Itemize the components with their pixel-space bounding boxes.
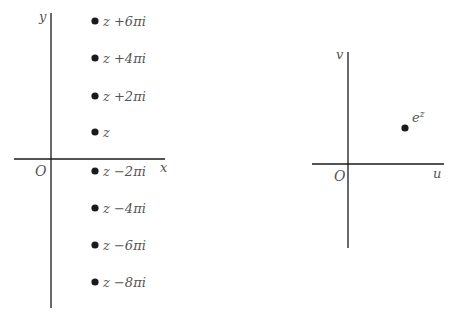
left-y-axis-label: y (38, 9, 47, 24)
right-u-axis-label: u (433, 166, 441, 181)
point-marker (401, 124, 408, 131)
point-marker (91, 128, 98, 135)
point-label: z +6πi (102, 14, 146, 29)
point-z-minus-4pi-i: z −4πi (91, 201, 145, 216)
point-marker (91, 92, 98, 99)
right-v-axis-label: v (336, 47, 344, 62)
point-label: z (102, 125, 110, 140)
point-marker (91, 17, 98, 24)
point-marker (91, 241, 98, 248)
point-marker (91, 204, 98, 211)
point-marker (91, 167, 98, 174)
diagram-canvas: y x O z +6πi z +4πi z +2πi z z −2πi z −4… (0, 0, 452, 320)
point-label: z −6πi (102, 238, 146, 253)
point-z-plus-2pi-i: z +2πi (91, 89, 145, 104)
point-marker (91, 54, 98, 61)
point-label-superscript: z (419, 109, 425, 119)
point-z-minus-6pi-i: z −6πi (91, 238, 145, 253)
point-label: z +2πi (102, 89, 146, 104)
point-z-minus-2pi-i: z −2πi (91, 164, 145, 179)
point-label: z −2πi (102, 164, 146, 179)
left-origin-label: O (35, 163, 47, 179)
left-x-axis-label: x (160, 160, 168, 175)
point-label: z −8πi (102, 275, 146, 290)
point-marker (91, 278, 98, 285)
point-z-plus-6pi-i: z +6πi (91, 14, 145, 29)
point-label: z +4πi (102, 51, 146, 66)
point-label-exp: ez (412, 109, 425, 125)
point-exp-z: ez (401, 109, 424, 132)
point-label: z −4πi (102, 201, 146, 216)
right-origin-label: O (334, 168, 346, 184)
point-z-plus-4pi-i: z +4πi (91, 51, 145, 66)
point-z: z (91, 125, 110, 140)
point-z-minus-8pi-i: z −8πi (91, 275, 145, 290)
